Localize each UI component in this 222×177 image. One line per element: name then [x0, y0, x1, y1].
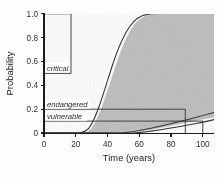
- y-tick-label-1.0: 1.0: [27, 10, 39, 19]
- y-tick-label-0.8: 0.8: [27, 34, 39, 43]
- annotation-vulnerable: vulnerable: [47, 112, 82, 121]
- annotation-endangered: endangered: [47, 100, 88, 109]
- x-tick-label-60: 60: [135, 140, 145, 149]
- x-tick-label-0: 0: [42, 140, 47, 149]
- chart-canvas: 1.0 0.8 0.6 0.4 0.2 0 0 20 40 60 80 100 …: [0, 0, 222, 177]
- x-tick-label-20: 20: [71, 140, 81, 149]
- x-tick-label-80: 80: [166, 140, 176, 149]
- x-axis-title: Time (years): [103, 152, 155, 163]
- y-axis-title: Probability: [4, 51, 15, 95]
- y-tick-label-0.2: 0.2: [27, 105, 39, 114]
- y-tick-label-0.6: 0.6: [27, 57, 39, 66]
- annotation-critical: critical: [47, 64, 69, 73]
- x-tick-label-100: 100: [196, 140, 210, 149]
- chart-figure: 1.0 0.8 0.6 0.4 0.2 0 0 20 40 60 80 100 …: [0, 0, 222, 177]
- y-tick-label-0: 0: [33, 129, 38, 138]
- y-tick-label-0.4: 0.4: [27, 81, 39, 90]
- x-tick-label-40: 40: [103, 140, 113, 149]
